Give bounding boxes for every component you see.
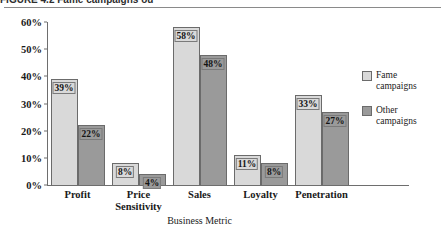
bar-value-label: 58% (175, 30, 198, 42)
y-axis-tick-label: 0% (26, 180, 47, 191)
bar-groups: 39%22%8%4%58%48%11%8%33%27% (47, 22, 352, 185)
legend-label-line: campaigns (376, 116, 417, 127)
bar[interactable]: 33% (295, 95, 322, 185)
x-axis-title: Business Metric (47, 215, 352, 226)
figure-container: FIGURE 4.2 Fame campaigns ou 0%10%20%30%… (0, 0, 445, 240)
legend-label-line: campaigns (376, 81, 417, 92)
plot-area: 0%10%20%30%40%50%60% 39%22%8%4%58%48%11%… (47, 22, 352, 185)
bar-value-label: 33% (297, 98, 320, 110)
y-axis-tick-label: 30% (21, 98, 47, 109)
bar[interactable]: 8% (112, 163, 139, 185)
x-axis-line (47, 185, 409, 186)
legend-swatch (362, 106, 372, 116)
bar-group: 33%27% (291, 22, 352, 185)
legend-item[interactable]: Famecampaigns (362, 70, 444, 92)
bar[interactable]: 11% (234, 155, 261, 185)
bar-value-label: 4% (143, 177, 161, 189)
bar-group: 8%4% (108, 22, 169, 185)
legend-label: Othercampaigns (376, 105, 417, 127)
bar-value-label: 48% (202, 58, 225, 70)
x-axis-label-line: Loyalty (230, 189, 291, 201)
bar-group: 39%22% (47, 22, 108, 185)
y-axis-tick-label: 20% (21, 125, 47, 136)
y-axis-tick-label: 40% (21, 71, 47, 82)
legend-swatch (362, 71, 372, 81)
x-axis-label-line: Profit (47, 189, 108, 201)
bar[interactable]: 39% (51, 79, 78, 185)
bar[interactable]: 8% (261, 163, 288, 185)
bar[interactable]: 48% (200, 55, 227, 185)
legend-label-line: Other (376, 105, 417, 116)
bar-value-label: 39% (53, 82, 76, 94)
x-axis-label-line: Sensitivity (108, 201, 169, 213)
bar-group: 58%48% (169, 22, 230, 185)
y-axis-tick-label: 10% (21, 152, 47, 163)
bar-value-label: 8% (116, 166, 134, 178)
bar-value-label: 8% (265, 166, 283, 178)
x-axis-category-labels: ProfitPriceSensitivitySalesLoyaltyPenetr… (47, 189, 352, 213)
x-axis-label-line: Sales (169, 189, 230, 201)
bar-value-label: 27% (324, 115, 347, 127)
y-axis-tick-label: 60% (21, 17, 47, 28)
bar-value-label: 11% (236, 158, 258, 170)
bar-group: 11%8% (230, 22, 291, 185)
bar[interactable]: 4% (139, 174, 166, 185)
figure-caption-text: FIGURE 4.2 Fame campaigns ou (0, 0, 300, 7)
x-axis-label: PriceSensitivity (108, 189, 169, 213)
x-axis-label-line: Price (108, 189, 169, 201)
figure-caption: FIGURE 4.2 Fame campaigns ou (0, 0, 300, 7)
legend-label-line: Fame (376, 70, 417, 81)
bar[interactable]: 22% (78, 125, 105, 185)
bar[interactable]: 58% (173, 27, 200, 185)
bar[interactable]: 27% (322, 112, 349, 185)
caption-divider (4, 7, 441, 8)
x-axis-label: Profit (47, 189, 108, 213)
x-axis-label-line: Penetration (291, 189, 352, 201)
legend-item[interactable]: Othercampaigns (362, 105, 444, 127)
x-axis-label: Sales (169, 189, 230, 213)
x-axis-label: Penetration (291, 189, 352, 213)
y-axis-tick-label: 50% (21, 44, 47, 55)
x-axis-label: Loyalty (230, 189, 291, 213)
chart-legend: FamecampaignsOthercampaigns (362, 70, 444, 140)
bar-value-label: 22% (80, 128, 103, 140)
legend-label: Famecampaigns (376, 70, 417, 92)
